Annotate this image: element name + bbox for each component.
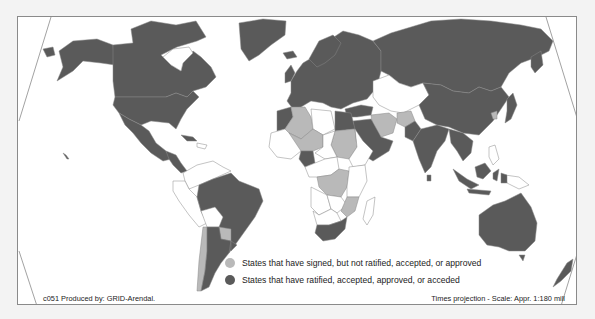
region-indonesia xyxy=(453,169,479,189)
region-madagascar xyxy=(363,197,375,225)
region-russia xyxy=(373,19,553,93)
legend-label-signed: States that have signed, but not ratifie… xyxy=(242,258,481,268)
legend-swatch-ratified xyxy=(225,275,235,285)
projection-note: Times projection - Scale: Appr. 1:180 mi… xyxy=(431,294,565,303)
region-alaska-west xyxy=(43,47,55,57)
region-java xyxy=(467,189,491,195)
region-caribbean xyxy=(181,135,197,141)
world-map: States that have signed, but not ratifie… xyxy=(17,16,577,305)
region-new-zealand xyxy=(553,259,573,287)
region-sulawesi xyxy=(493,169,499,181)
legend-swatch-signed xyxy=(225,258,235,268)
legend-label-ratified: States that have ratified, accepted, app… xyxy=(242,275,460,285)
region-iceland xyxy=(283,51,297,59)
region-sri-lanka xyxy=(427,175,431,181)
map-credit: c051 Produced by: GRID-Arendal. xyxy=(43,294,155,303)
region-east-africa xyxy=(347,165,367,197)
region-canada xyxy=(113,21,216,97)
region-mozambique xyxy=(341,197,359,217)
legend: States that have signed, but not ratifie… xyxy=(225,254,481,288)
region-new-guinea-west xyxy=(501,173,507,183)
region-caribbean-2 xyxy=(197,143,207,149)
legend-item-signed: States that have signed, but not ratifie… xyxy=(225,254,481,271)
region-greenland xyxy=(239,19,286,61)
region-hawaii xyxy=(63,153,69,159)
projection-edge-left xyxy=(19,17,51,305)
legend-item-ratified: States that have ratified, accepted, app… xyxy=(225,271,481,288)
region-alaska xyxy=(57,39,115,81)
region-tasmania xyxy=(519,255,525,261)
region-philippines xyxy=(489,145,499,165)
region-borneo xyxy=(475,163,491,179)
region-new-guinea xyxy=(505,175,529,189)
region-central-america xyxy=(166,151,187,173)
region-australia xyxy=(479,193,537,251)
